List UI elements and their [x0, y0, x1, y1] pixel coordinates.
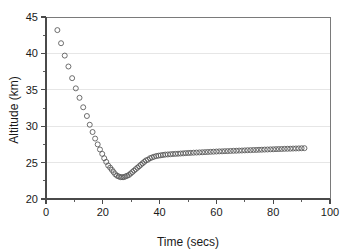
data-point	[55, 28, 60, 33]
data-point	[59, 41, 64, 46]
data-point	[77, 95, 82, 100]
plot-frame	[46, 17, 330, 199]
y-tick-label: 45	[26, 11, 38, 23]
y-tick-label: 20	[26, 193, 38, 205]
y-tick-label: 35	[26, 84, 38, 96]
x-tick-label: 60	[210, 206, 222, 218]
y-axis-title: Altitude (km)	[7, 76, 21, 143]
chart-figure: 020406080100 202530354045 Time (secs) Al…	[0, 0, 357, 252]
x-axis-tick-labels: 020406080100	[43, 206, 339, 218]
x-axis-title: Time (secs)	[157, 235, 219, 249]
x-tick-label: 20	[97, 206, 109, 218]
data-point	[66, 64, 71, 69]
y-axis-tick-labels: 202530354045	[26, 11, 38, 205]
x-tick-label: 80	[267, 206, 279, 218]
data-point	[90, 130, 95, 135]
x-tick-label: 0	[43, 206, 49, 218]
data-point	[62, 53, 67, 58]
major-tick-group	[41, 17, 330, 204]
data-point	[81, 105, 86, 110]
data-point	[70, 76, 75, 81]
x-tick-label: 40	[153, 206, 165, 218]
data-point	[93, 136, 98, 141]
data-point	[84, 114, 89, 119]
data-point	[95, 142, 100, 147]
x-tick-label: 100	[321, 206, 339, 218]
data-point-group	[55, 28, 307, 180]
y-tick-label: 30	[26, 120, 38, 132]
minor-tick-group	[43, 35, 302, 202]
y-tick-label: 25	[26, 157, 38, 169]
y-tick-label: 40	[26, 47, 38, 59]
altitude-vs-time-scatter-plot: 020406080100 202530354045 Time (secs) Al…	[0, 0, 357, 252]
